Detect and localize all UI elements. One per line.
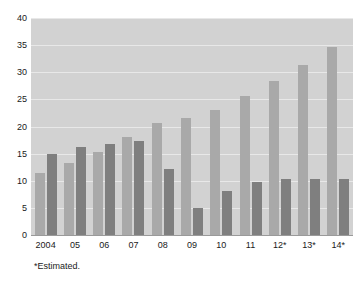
y-axis-tick-label: 10 — [17, 176, 27, 185]
bar-group — [298, 18, 320, 235]
x-axis: 20040506070809101112*13*14* — [31, 240, 353, 254]
bar-series-a-11 — [240, 96, 250, 235]
y-axis: 0510152025303540 — [0, 18, 27, 236]
x-axis-tick-label: 08 — [158, 240, 168, 251]
bar-group — [210, 18, 232, 235]
y-axis-tick-label: 15 — [17, 149, 27, 158]
y-axis-tick-label: 40 — [17, 14, 27, 23]
bar-series-a-06 — [93, 152, 103, 235]
chart-footnote: *Estimated. — [34, 261, 80, 272]
bar-series-a-13est — [298, 65, 308, 235]
y-axis-tick-label: 30 — [17, 68, 27, 77]
x-axis-tick-label: 06 — [99, 240, 109, 251]
bar-series-a-09 — [181, 118, 191, 235]
x-axis-tick-label: 05 — [70, 240, 80, 251]
bar-series-b-12est — [281, 179, 291, 235]
x-axis-tick-label: 10 — [216, 240, 226, 251]
bar-series-b-08 — [164, 169, 174, 235]
x-axis-tick-label: 13* — [302, 240, 316, 251]
bar-group — [269, 18, 291, 235]
bar-series-a-08 — [152, 123, 162, 235]
y-axis-tick-label: 35 — [17, 41, 27, 50]
bar-series-a-07 — [122, 137, 132, 235]
bar-series-b-05 — [76, 147, 86, 235]
y-axis-tick-label: 25 — [17, 95, 27, 104]
bar-series-a-05 — [64, 163, 74, 235]
x-axis-tick-label: 11 — [246, 240, 255, 251]
x-axis-tick-label: 12* — [273, 240, 287, 251]
bar-series-b-11 — [252, 182, 262, 235]
bar-series-a-10 — [210, 110, 220, 235]
bar-group — [327, 18, 349, 235]
y-axis-tick-label: 0 — [22, 231, 27, 240]
bar-series-a-2004 — [35, 173, 45, 235]
bar-series-b-14est — [339, 179, 349, 235]
bar-series-b-10 — [222, 191, 232, 235]
bar-group — [122, 18, 144, 235]
bar-series-b-07 — [134, 141, 144, 235]
bar-group — [35, 18, 57, 235]
bar-series-b-06 — [105, 144, 115, 235]
plot-area — [31, 18, 353, 236]
bar-series-b-13est — [310, 179, 320, 235]
bar-series-a-14est — [327, 47, 337, 235]
bar-group — [152, 18, 174, 235]
x-axis-tick-label: 14* — [332, 240, 346, 251]
bar-series-b-2004 — [47, 154, 57, 235]
x-axis-tick-label: 09 — [187, 240, 197, 251]
bar-group — [240, 18, 262, 235]
bar-series-a-12est — [269, 81, 279, 235]
bar-series-b-09 — [193, 208, 203, 235]
bars-layer — [31, 18, 353, 236]
bar-chart-figure: 0510152025303540 20040506070809101112*13… — [0, 0, 361, 287]
bar-group — [181, 18, 203, 235]
x-axis-tick-label: 2004 — [36, 240, 56, 251]
bar-group — [93, 18, 115, 235]
y-axis-tick-label: 5 — [22, 203, 27, 212]
bar-group — [64, 18, 86, 235]
y-axis-tick-label: 20 — [17, 122, 27, 131]
x-axis-tick-label: 07 — [128, 240, 138, 251]
